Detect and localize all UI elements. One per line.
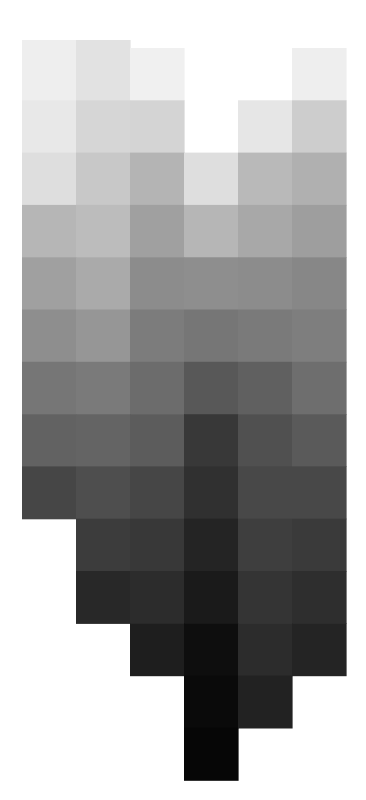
heatmap-cell [76, 257, 131, 310]
heatmap-cell [292, 310, 347, 363]
heatmap-cell [292, 257, 347, 310]
heatmap-cell [130, 48, 185, 101]
heatmap-cell [292, 571, 347, 624]
heatmap-column-5 [238, 100, 293, 728]
heatmap-cell [184, 257, 239, 310]
heatmap-cell [76, 519, 131, 572]
heatmap-column-6 [292, 48, 347, 676]
heatmap-cell [292, 362, 347, 415]
heatmap-cell [22, 466, 77, 519]
heatmap-cell [22, 205, 77, 258]
heatmap-cell [184, 414, 239, 467]
heatmap-cell [76, 205, 131, 258]
heatmap-cell [238, 466, 293, 519]
heatmap-cell [292, 205, 347, 258]
heatmap-cell [76, 571, 131, 624]
heatmap-cell [238, 257, 293, 310]
heatmap-cell [238, 571, 293, 624]
heatmap-cell [238, 676, 293, 729]
grayscale-heatmap [0, 0, 366, 800]
heatmap-cell [184, 571, 239, 624]
heatmap-cell [76, 362, 131, 415]
heatmap-cell [184, 205, 239, 258]
heatmap-cell [76, 414, 131, 467]
heatmap-cell [292, 519, 347, 572]
heatmap-cell [292, 414, 347, 467]
heatmap-column-1 [22, 40, 77, 519]
heatmap-cell [184, 728, 239, 781]
heatmap-cell [22, 362, 77, 415]
heatmap-cell [22, 310, 77, 363]
heatmap-cell [184, 519, 239, 572]
heatmap-cell [130, 466, 185, 519]
heatmap-cell [76, 40, 131, 101]
heatmap-cell [76, 153, 131, 206]
heatmap-cell [22, 40, 77, 101]
heatmap-cell [184, 466, 239, 519]
heatmap-cell [130, 205, 185, 258]
heatmap-column-2 [76, 40, 131, 624]
heatmap-cell [184, 623, 239, 676]
heatmap-cell [22, 414, 77, 467]
heatmap-cell [130, 310, 185, 363]
heatmap-cell [238, 100, 293, 153]
heatmap-cell [130, 257, 185, 310]
heatmap-cell [22, 100, 77, 153]
heatmap-cell [238, 205, 293, 258]
heatmap-cell [292, 100, 347, 153]
heatmap-cell [130, 362, 185, 415]
heatmap-cell [130, 623, 185, 676]
heatmap-cell [238, 623, 293, 676]
heatmap-cell [184, 153, 239, 206]
heatmap-cell [238, 519, 293, 572]
heatmap-cell [130, 571, 185, 624]
heatmap-cell [130, 414, 185, 467]
heatmap-cell [22, 153, 77, 206]
heatmap-cell [184, 362, 239, 415]
heatmap-cell [130, 519, 185, 572]
heatmap-cell [292, 466, 347, 519]
heatmap-cell [238, 414, 293, 467]
heatmap-cell [130, 100, 185, 153]
heatmap-cell [130, 153, 185, 206]
heatmap-cell [238, 153, 293, 206]
heatmap-column-3 [130, 48, 185, 676]
heatmap-cell [238, 362, 293, 415]
heatmap-cell [292, 623, 347, 676]
heatmap-cell [184, 310, 239, 363]
heatmap-cell [292, 48, 347, 101]
heatmap-cell [292, 153, 347, 206]
heatmap-cell [238, 310, 293, 363]
heatmap-cell [76, 100, 131, 153]
heatmap-cell [22, 257, 77, 310]
heatmap-cell [76, 466, 131, 519]
heatmap-cell [184, 676, 239, 729]
heatmap-column-4 [184, 153, 239, 781]
heatmap-cell [76, 310, 131, 363]
